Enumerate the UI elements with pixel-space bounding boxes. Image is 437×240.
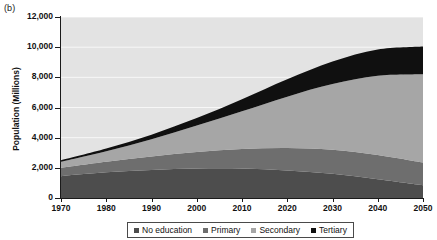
y-tick-mark [55, 198, 60, 199]
legend-label: Primary [211, 225, 240, 235]
x-tick-label: 1980 [86, 203, 126, 213]
y-tick-label: 0 [1, 192, 53, 202]
y-tick-mark [55, 168, 60, 169]
x-tick-label: 2040 [358, 203, 398, 213]
legend-label: No education [142, 225, 192, 235]
y-axis-line [60, 16, 61, 199]
plot-area [61, 17, 423, 198]
y-tick-label: 6,000 [1, 102, 53, 112]
y-tick-mark [55, 108, 60, 109]
x-tick-label: 1990 [132, 203, 172, 213]
x-tick-mark [242, 198, 243, 202]
y-tick-mark [55, 17, 60, 18]
x-tick-mark [378, 198, 379, 202]
y-tick-label: 12,000 [1, 11, 53, 21]
x-tick-mark [152, 198, 153, 202]
legend-swatch-icon [251, 228, 256, 233]
y-tick-mark [55, 138, 60, 139]
y-tick-label: 4,000 [1, 132, 53, 142]
legend-label: Tertiary [319, 225, 347, 235]
legend-label: Secondary [259, 225, 300, 235]
x-tick-mark [197, 198, 198, 202]
x-tick-label: 2020 [267, 203, 307, 213]
x-tick-label: 2050 [403, 203, 437, 213]
legend-item-tertiary[interactable]: Tertiary [311, 225, 347, 235]
x-tick-label: 2030 [313, 203, 353, 213]
chart-legend: No educationPrimarySecondaryTertiary [127, 222, 354, 238]
y-tick-label: 2,000 [1, 162, 53, 172]
legend-swatch-icon [311, 228, 316, 233]
y-tick-mark [55, 77, 60, 78]
y-tick-label: 10,000 [1, 41, 53, 51]
x-tick-label: 1970 [41, 203, 81, 213]
legend-item-secondary[interactable]: Secondary [251, 225, 300, 235]
x-tick-mark [61, 198, 62, 202]
x-tick-mark [333, 198, 334, 202]
legend-item-primary[interactable]: Primary [203, 225, 240, 235]
x-tick-label: 2010 [222, 203, 262, 213]
x-tick-mark [106, 198, 107, 202]
y-tick-label: 8,000 [1, 71, 53, 81]
y-tick-mark [55, 47, 60, 48]
legend-swatch-icon [134, 228, 139, 233]
legend-swatch-icon [203, 228, 208, 233]
x-tick-label: 2000 [177, 203, 217, 213]
x-tick-mark [287, 198, 288, 202]
stacked-area-chart [61, 17, 423, 198]
x-tick-mark [423, 198, 424, 202]
legend-item-no-education[interactable]: No education [134, 225, 192, 235]
